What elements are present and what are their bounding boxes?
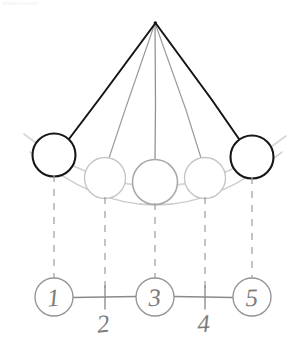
string-2: [109, 23, 155, 158]
pendulum-diagram-svg: 1 3 5 2 4: [0, 0, 302, 358]
string-1: [69, 23, 156, 139]
string-3: [155, 23, 156, 160]
ball-group: [33, 134, 274, 205]
string-4: [155, 23, 201, 158]
ball-2: [85, 158, 126, 199]
position-label-2: 2: [95, 309, 110, 337]
position-label-1: 1: [46, 284, 60, 312]
pivot-point: [154, 21, 157, 24]
ball-5: [231, 136, 274, 179]
ball-1: [33, 134, 76, 177]
position-label-group: 1 3 5 2 4: [46, 284, 258, 338]
ball-3: [133, 160, 178, 205]
string-group: [69, 21, 239, 160]
position-label-3: 3: [147, 284, 162, 312]
position-label-5: 5: [245, 284, 258, 311]
ball-4: [185, 158, 226, 199]
diagram-canvas: shutterstock: [0, 0, 302, 358]
position-label-4: 4: [197, 310, 211, 338]
axis-segment-3-5: [174, 297, 233, 298]
string-5: [156, 23, 240, 139]
